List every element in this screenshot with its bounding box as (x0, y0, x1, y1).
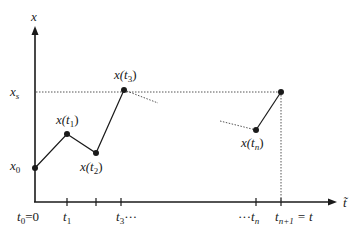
x-tn-label: x(tn) (240, 135, 264, 152)
x-t1-label: x(t1) (55, 112, 79, 129)
xs-label: xs (9, 84, 20, 101)
random-walk-diagram: x t̃ xs x0 x(t1) x(t2) x(t3) x(tn) t0=0 … (0, 0, 359, 232)
point-x-t3 (121, 87, 127, 93)
walk-path (35, 90, 124, 168)
y-axis-label: x (30, 9, 37, 24)
x-axis-arrow-icon (328, 199, 337, 206)
tick-label-tn1: tn+1 = t (275, 209, 313, 226)
tick-label-t1: t1 (63, 209, 71, 226)
x0-label: x0 (9, 158, 21, 175)
x-t3-label: x(t3) (113, 67, 137, 84)
point-x-tn1 (278, 89, 284, 95)
x-t2-label: x(t2) (79, 159, 103, 176)
walk-incoming-dotted (220, 121, 256, 130)
tick-label-t3: t3··· (116, 209, 137, 226)
walk-final-segment (256, 92, 281, 130)
point-x-t1 (64, 131, 70, 137)
tick-label-tn: ···tn (238, 209, 260, 226)
tick-label-t0: t0=0 (17, 209, 39, 226)
walk-points (32, 87, 284, 171)
point-x0 (32, 165, 38, 171)
y-axis-arrow-icon (32, 26, 39, 35)
point-x-t2 (93, 150, 99, 156)
x-axis-label: t̃ (343, 195, 349, 210)
point-x-tn (253, 127, 259, 133)
